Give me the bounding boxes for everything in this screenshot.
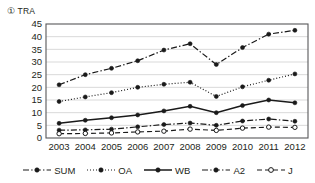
data-point-A2-2008 [188,121,192,125]
data-point-J-2008 [188,127,192,131]
series-J [57,125,297,136]
data-point-WB-2006 [136,113,140,117]
x-tick-label: 2005 [101,141,122,152]
x-tick-label: 2007 [153,141,174,152]
legend-label-OA: OA [118,165,132,176]
legend-swatch-J [256,165,286,175]
series-line-A2 [59,119,295,130]
data-point-OA-2011 [267,78,271,82]
y-tick-label: 5 [37,120,42,131]
data-point-A2-2007 [162,123,166,127]
y-tick-label: 30 [31,56,42,67]
series-line-SUM [59,30,295,84]
data-point-WB-2011 [267,98,271,102]
data-point-OA-2004 [83,95,87,99]
series-line-OA [59,74,295,102]
data-point-SUM-2003 [57,83,61,87]
data-point-WB-2009 [214,111,218,115]
y-axis-tick-labels: 051015202530354045 [31,18,42,143]
series-line-J [59,127,295,134]
y-tick-label: 0 [37,132,42,143]
data-point-OA-2006 [136,85,140,89]
data-point-SUM-2012 [293,28,297,32]
data-point-J-2012 [293,125,297,129]
data-point-J-2007 [162,129,166,133]
data-point-OA-2008 [188,80,192,84]
legend-item-OA[interactable]: OA [86,165,132,176]
data-point-J-2003 [57,131,61,135]
data-point-A2-2010 [241,119,245,123]
legend-label-SUM: SUM [54,165,75,176]
legend-label-J: J [288,165,293,176]
data-point-OA-2009 [214,94,218,98]
x-tick-label: 2011 [258,141,278,152]
series-WB [57,98,297,125]
data-point-WB-2007 [162,109,166,113]
data-point-SUM-2008 [188,42,192,46]
y-tick-label: 10 [31,107,42,118]
chart-title: ① TRA [7,6,35,17]
legend-swatch-OA [86,165,116,175]
data-point-SUM-2009 [214,63,218,67]
data-point-OA-2012 [293,72,297,76]
data-point-WB-2012 [293,101,297,105]
data-point-SUM-2011 [267,32,271,36]
data-point-SUM-2004 [83,73,87,77]
x-tick-label: 2010 [232,141,253,152]
data-point-SUM-2010 [241,46,245,50]
x-tick-label: 2004 [75,141,96,152]
data-point-WB-2003 [57,121,61,125]
series-SUM [57,28,297,86]
data-point-J-2005 [109,131,113,135]
data-point-SUM-2006 [136,59,140,63]
data-point-A2-2006 [136,125,140,129]
data-point-SUM-2005 [110,66,114,70]
plot-area: 051015202530354045 200320042005200620072… [0,18,315,158]
data-point-J-2010 [240,126,244,130]
series-OA [57,72,297,104]
x-tick-label: 2008 [180,141,201,152]
x-tick-label: 2009 [206,141,227,152]
y-tick-label: 20 [31,82,42,93]
legend-item-A2[interactable]: A2 [201,165,245,176]
data-point-J-2011 [267,125,271,129]
y-tick-label: 15 [31,94,42,105]
series-group [57,28,297,136]
data-point-OA-2003 [57,100,61,104]
legend-swatch-SUM [22,165,52,175]
data-point-WB-2008 [188,104,192,108]
y-tick-label: 25 [31,69,42,80]
data-point-WB-2005 [110,116,114,120]
y-tick-label: 40 [31,31,42,42]
legend-swatch-A2 [201,165,231,175]
data-point-A2-2011 [267,117,271,121]
legend-label-WB: WB [175,165,190,176]
data-point-OA-2005 [110,91,114,95]
chart-figure: ① TRA 051015202530354045 200320042005200… [0,0,315,183]
legend-swatch-WB [143,165,173,175]
legend-item-J[interactable]: J [256,165,293,176]
data-point-OA-2007 [162,82,166,86]
data-point-A2-2012 [293,119,297,123]
data-point-J-2004 [83,131,87,135]
data-point-J-2006 [136,130,140,134]
chart-legend: SUMOAWBA2J [0,160,315,180]
x-axis-tick-labels: 2003200420052006200720082009201020112012 [49,141,306,152]
plot-svg: 051015202530354045 200320042005200620072… [0,18,315,158]
data-point-OA-2010 [241,85,245,89]
data-point-WB-2004 [83,118,87,122]
data-point-SUM-2007 [162,48,166,52]
legend-label-A2: A2 [233,165,245,176]
x-tick-label: 2003 [49,141,70,152]
data-point-A2-2009 [214,123,218,127]
legend-item-SUM[interactable]: SUM [22,165,75,176]
y-tick-label: 35 [31,44,42,55]
legend-item-WB[interactable]: WB [143,165,190,176]
x-tick-label: 2006 [127,141,148,152]
data-point-WB-2010 [241,104,245,108]
x-tick-label: 2012 [284,141,305,152]
y-tick-label: 45 [31,18,42,29]
data-point-J-2009 [214,128,218,132]
